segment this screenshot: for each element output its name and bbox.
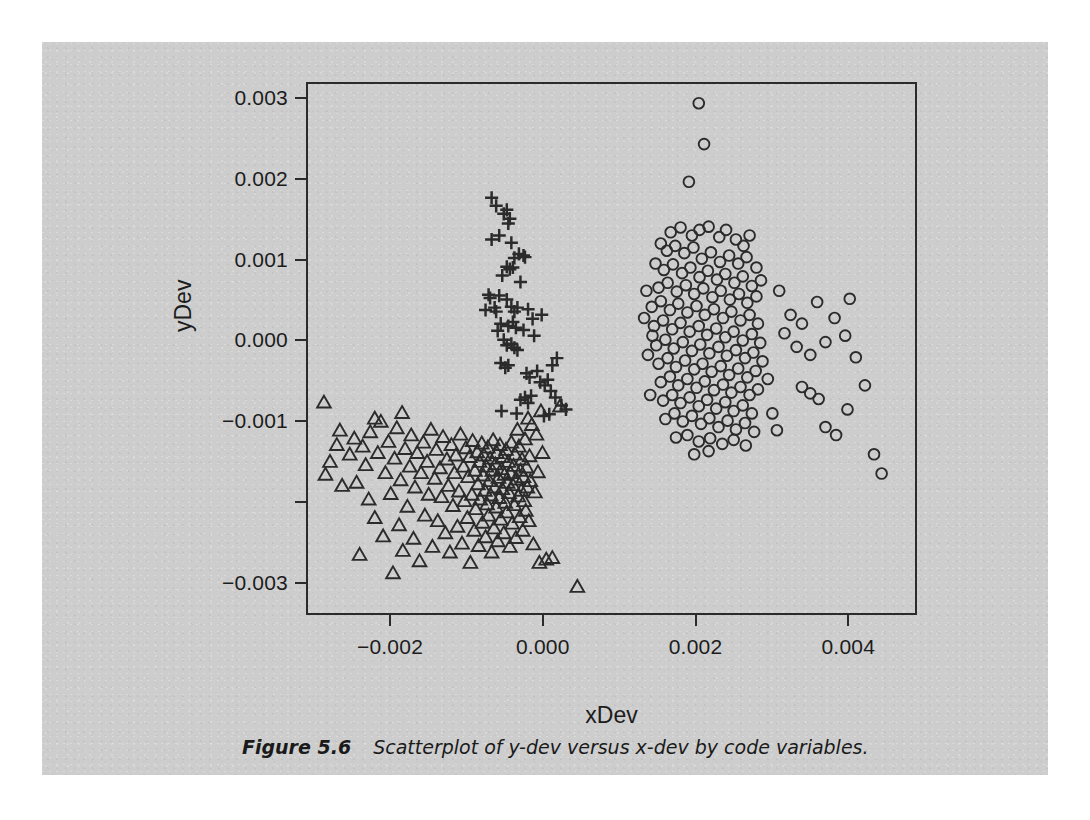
scatter-canvas [308,84,915,613]
figure-page: yDev 0.0030.0020.0010.000−0.001−0.003 −0… [0,0,1090,820]
plot-area [306,82,917,615]
y-tick-mark [295,501,306,503]
figure-number: Figure 5.6 [242,736,351,758]
x-tick-label: 0.004 [821,635,875,659]
y-tick-label: 0.000 [196,328,288,352]
y-tick-label: 0.001 [196,248,288,272]
figure-container: yDev 0.0030.0020.0010.000−0.001−0.003 −0… [42,42,1048,775]
y-tick-mark [295,339,306,341]
series-triangle [317,396,584,592]
y-tick-label: 0.003 [196,86,288,110]
y-tick-label: −0.003 [196,571,288,595]
y-axis-label: yDev [170,280,197,332]
y-tick-mark [295,97,306,99]
y-tick-mark [295,178,306,180]
y-tick-mark [295,582,306,584]
x-axis-label: xDev [306,702,917,729]
y-tick-mark [295,259,306,261]
scanned-page-background: yDev 0.0030.0020.0010.000−0.001−0.003 −0… [42,42,1048,775]
x-tick-label: −0.002 [357,635,423,659]
series-plus [479,191,573,422]
series-circle [639,98,887,479]
x-tick-label: 0.002 [669,635,723,659]
x-tick-mark [389,615,391,626]
figure-caption-text: Scatterplot of y-dev versus x-dev by cod… [373,736,868,758]
y-tick-label: −0.001 [196,409,288,433]
x-tick-mark [542,615,544,626]
y-tick-mark [295,420,306,422]
figure-caption: Figure 5.6Scatterplot of y-dev versus x-… [242,736,942,759]
x-tick-mark [695,615,697,626]
x-tick-label: 0.000 [516,635,570,659]
y-tick-label: 0.002 [196,167,288,191]
x-tick-mark [847,615,849,626]
